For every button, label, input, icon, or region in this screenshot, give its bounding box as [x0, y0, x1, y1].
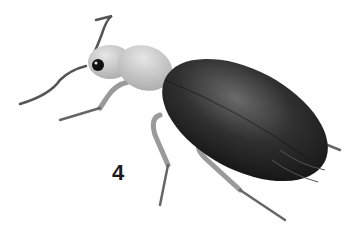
beetle-illustration — [0, 0, 354, 247]
figure-label: 4 — [112, 160, 124, 186]
antenna-lower — [20, 66, 86, 104]
beetle-eye — [92, 59, 104, 71]
beetle-elytra — [142, 34, 348, 207]
